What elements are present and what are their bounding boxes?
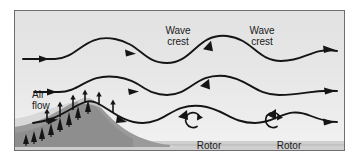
label-wave-crest-1: Wave crest — [152, 25, 204, 47]
label-rotor-2: Rotor — [267, 140, 311, 151]
arrowhead — [324, 88, 336, 95]
middle-streamline — [37, 76, 337, 96]
middle-streamline-path — [37, 76, 337, 95]
arrowhead — [47, 118, 58, 125]
arrowhead — [128, 89, 139, 96]
label-wave-crest-2: Wave crest — [236, 25, 288, 47]
arrowhead — [39, 56, 49, 63]
rotor-1-icon — [186, 113, 203, 128]
arrowhead — [125, 50, 136, 57]
label-rotor-1: Rotor — [187, 140, 231, 151]
arrowhead — [323, 46, 335, 53]
mountain-wave-figure: Wave crest Wave crest Air flow Rotor Rot… — [0, 0, 359, 165]
label-air-flow: Air flow — [32, 89, 62, 111]
diagram-frame: Wave crest Wave crest Air flow Rotor Rot… — [14, 10, 345, 151]
arrowhead — [323, 118, 335, 125]
rotor-arrowhead — [197, 114, 203, 121]
